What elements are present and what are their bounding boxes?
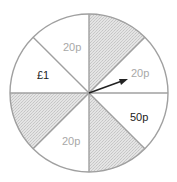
label-ne-e: 20p bbox=[131, 67, 149, 79]
spinner-diagram: 20p 20p 50p 20p £1 bbox=[0, 0, 177, 182]
label-e-se: 50p bbox=[130, 111, 148, 123]
label-w-nw: £1 bbox=[37, 69, 49, 81]
label-s-sw: 20p bbox=[62, 135, 80, 147]
label-nw-n: 20p bbox=[63, 41, 81, 53]
